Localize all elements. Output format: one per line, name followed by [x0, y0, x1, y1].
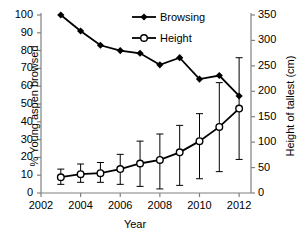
- data-point-height: [117, 166, 124, 173]
- x-tick-label: 2010: [179, 199, 219, 211]
- x-tick-label: 2008: [140, 199, 180, 211]
- x-axis-title: Year: [0, 218, 270, 230]
- legend-marker-height: [141, 35, 148, 42]
- y-tick-label-right: 50: [258, 161, 288, 173]
- data-point-height: [176, 149, 183, 156]
- y-tick-label-left: 80: [7, 44, 33, 56]
- y-tick-label-left: 50: [7, 97, 33, 109]
- y-tick-label-left: 60: [7, 79, 33, 91]
- y-tick-label-right: 100: [258, 135, 288, 147]
- data-point-height: [157, 157, 164, 164]
- data-point-height: [216, 124, 223, 131]
- y-tick-label-right: 250: [258, 59, 288, 71]
- x-tick-label: 2004: [61, 199, 101, 211]
- y-tick-label-left: 30: [7, 133, 33, 145]
- y-tick-label-right: 200: [258, 84, 288, 96]
- data-point-height: [58, 174, 65, 181]
- legend-label-browsing: Browsing: [160, 11, 205, 23]
- chart-container: BrowsingHeight % Young aspen browsed Hei…: [0, 0, 305, 237]
- legend-marker-browsing: [140, 13, 147, 20]
- y-tick-label-left: 70: [7, 61, 33, 73]
- data-point-browsing: [156, 61, 163, 68]
- y-tick-label-right: 150: [258, 110, 288, 122]
- y-tick-label-left: 0: [7, 186, 33, 198]
- data-point-height: [137, 160, 144, 167]
- x-tick-label: 2006: [100, 199, 140, 211]
- x-tick-label: 2002: [21, 199, 61, 211]
- y-tick-label-left: 20: [7, 150, 33, 162]
- y-tick-label-right: 350: [258, 8, 288, 20]
- data-point-browsing: [136, 50, 143, 57]
- y-tick-label-left: 100: [7, 8, 33, 20]
- series-line-browsing: [61, 15, 239, 96]
- y-tick-label-left: 10: [7, 168, 33, 180]
- series-line-height: [61, 109, 239, 178]
- legend-label-height: Height: [160, 32, 192, 44]
- data-point-height: [236, 105, 243, 112]
- y-tick-label-left: 40: [7, 115, 33, 127]
- x-tick-label: 2012: [219, 199, 259, 211]
- y-tick-label-right: 0: [258, 186, 288, 198]
- data-point-height: [97, 170, 104, 177]
- data-point-browsing: [117, 47, 124, 54]
- data-point-height: [196, 138, 203, 145]
- data-point-height: [77, 171, 84, 178]
- y-tick-label-right: 300: [258, 33, 288, 45]
- y-tick-label-left: 90: [7, 26, 33, 38]
